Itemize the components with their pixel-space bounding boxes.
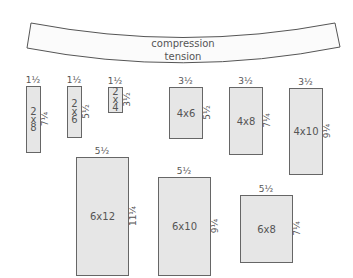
width-dimension: 3½ (178, 76, 193, 86)
lumber-diagram: compression tension 2x81½7¼2x61½5½2x41½3… (0, 0, 353, 278)
width-dimension: 3½ (298, 77, 313, 87)
section-label: 4x10 (293, 126, 318, 137)
lumber-6x12: 6x125½11¼ (77, 146, 139, 276)
height-dimension: 7¼ (292, 221, 302, 236)
section-label: 4 (112, 102, 118, 113)
section-label: 6 (71, 114, 77, 125)
height-dimension: 7¼ (40, 112, 50, 127)
section-label: 6x8 (257, 224, 276, 235)
width-dimension: 1½ (26, 75, 41, 85)
width-dimension: 5½ (95, 146, 110, 156)
height-dimension: 11¼ (128, 206, 138, 226)
width-dimension: 5½ (259, 184, 274, 194)
lumber-4x6: 4x63½5½ (170, 76, 213, 139)
lumber-2x4: 2x41½3½ (108, 76, 132, 113)
lumber-4x8: 4x83½7¼ (230, 76, 273, 155)
height-dimension: 9¼ (322, 124, 332, 139)
lumber-sections: 2x81½7¼2x61½5½2x41½3½4x63½5½4x83½7¼4x103… (26, 75, 332, 276)
section-label: 8 (30, 122, 36, 133)
width-dimension: 3½ (238, 76, 253, 86)
section-label: 6x12 (90, 211, 115, 222)
width-dimension: 5½ (177, 166, 192, 176)
width-dimension: 1½ (108, 76, 123, 86)
height-dimension: 9¼ (210, 219, 220, 234)
lumber-6x10: 6x105½9¼ (159, 166, 221, 276)
width-dimension: 1½ (67, 75, 82, 85)
height-dimension: 5½ (81, 104, 91, 119)
section-label: 4x6 (177, 108, 196, 119)
section-label: 4x8 (237, 116, 256, 127)
beam: compression tension (27, 23, 340, 63)
lumber-4x10: 4x103½9¼ (290, 77, 333, 175)
lumber-2x8: 2x81½7¼ (26, 75, 50, 153)
tension-label: tension (165, 51, 202, 62)
lumber-6x8: 6x85½7¼ (241, 184, 303, 263)
height-dimension: 5½ (202, 105, 212, 120)
height-dimension: 3½ (122, 92, 132, 107)
compression-label: compression (151, 38, 214, 49)
lumber-2x6: 2x61½5½ (67, 75, 91, 138)
height-dimension: 7¼ (262, 113, 272, 128)
section-label: 6x10 (172, 221, 197, 232)
